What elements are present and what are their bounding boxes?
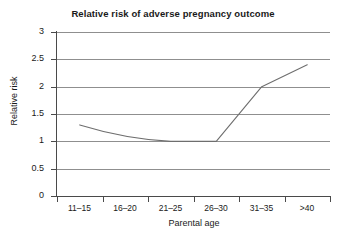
x-tick-2 <box>148 196 149 202</box>
gridline-3 <box>57 32 330 33</box>
y-tick-3 <box>51 32 57 33</box>
x-tick-5 <box>285 196 286 202</box>
x-tick-6 <box>330 196 331 202</box>
x-tick-label-21-25: 21–25 <box>148 203 194 213</box>
y-tick-label-0: 0 <box>0 190 44 200</box>
y-tick-2 <box>51 87 57 88</box>
y-tick-label-2: 2 <box>0 81 44 91</box>
y-tick-label-1-5: 1.5 <box>0 108 44 118</box>
gridline-1-5 <box>57 114 330 115</box>
x-tick-4 <box>239 196 240 202</box>
gridline-2-5 <box>57 59 330 60</box>
y-tick-label-2-5: 2.5 <box>0 53 44 63</box>
y-tick-1 <box>51 141 57 142</box>
x-tick-label-26-30: 26–30 <box>193 203 239 213</box>
gridline-2 <box>57 87 330 88</box>
x-axis-title: Parental age <box>57 218 331 228</box>
x-tick-1 <box>103 196 104 202</box>
x-tick-0 <box>57 196 58 202</box>
y-tick-2-5 <box>51 59 57 60</box>
gridline-0-5 <box>57 169 330 170</box>
y-axis-title: Relative risk <box>9 63 19 139</box>
x-tick-3 <box>194 196 195 202</box>
x-tick-label-31-35: 31–35 <box>239 203 285 213</box>
gridline-1 <box>57 141 330 142</box>
plot-area <box>57 32 330 196</box>
y-tick-0-5 <box>51 169 57 170</box>
x-tick-label-11-15: 11–15 <box>57 203 103 213</box>
y-tick-1-5 <box>51 114 57 115</box>
x-tick-label-over-40: >40 <box>284 203 330 213</box>
chart-figure: Relative risk of adverse pregnancy outco… <box>0 0 346 237</box>
chart-title: Relative risk of adverse pregnancy outco… <box>0 8 346 19</box>
y-tick-label-3: 3 <box>0 26 44 36</box>
y-tick-label-1: 1 <box>0 135 44 145</box>
y-tick-label-0-5: 0.5 <box>0 163 44 173</box>
x-tick-label-16-20: 16–20 <box>102 203 148 213</box>
